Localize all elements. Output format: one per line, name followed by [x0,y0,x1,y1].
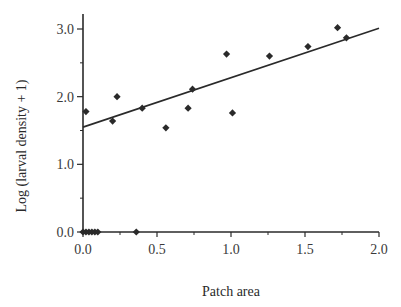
data-point [162,124,169,131]
x-tick-label: 1.5 [296,242,314,257]
y-tick-label: 0.0 [57,225,75,240]
data-point [229,109,236,116]
y-tick-label: 2.0 [57,90,75,105]
data-point [113,93,120,100]
axes [83,14,379,232]
x-tick-label: 1.0 [222,242,240,257]
x-tick-label: 2.0 [370,242,388,257]
data-point [223,50,230,57]
scatter-chart: 0.00.51.01.52.00.01.02.03.0 Patch area L… [0,0,401,307]
y-axis-label: Log (larval density + 1) [14,79,30,212]
data-point [266,52,273,59]
data-point [139,105,146,112]
data-point [133,228,140,235]
data-point [184,105,191,112]
data-points [79,24,350,236]
y-tick-label: 1.0 [57,157,75,172]
data-point [334,24,341,31]
x-tick-label: 0.5 [148,242,166,257]
y-tick-label: 3.0 [57,22,75,37]
data-point [304,43,311,50]
ticks: 0.00.51.01.52.00.01.02.03.0 [57,22,388,257]
x-tick-label: 0.0 [74,242,92,257]
x-axis-label: Patch area [202,284,261,299]
